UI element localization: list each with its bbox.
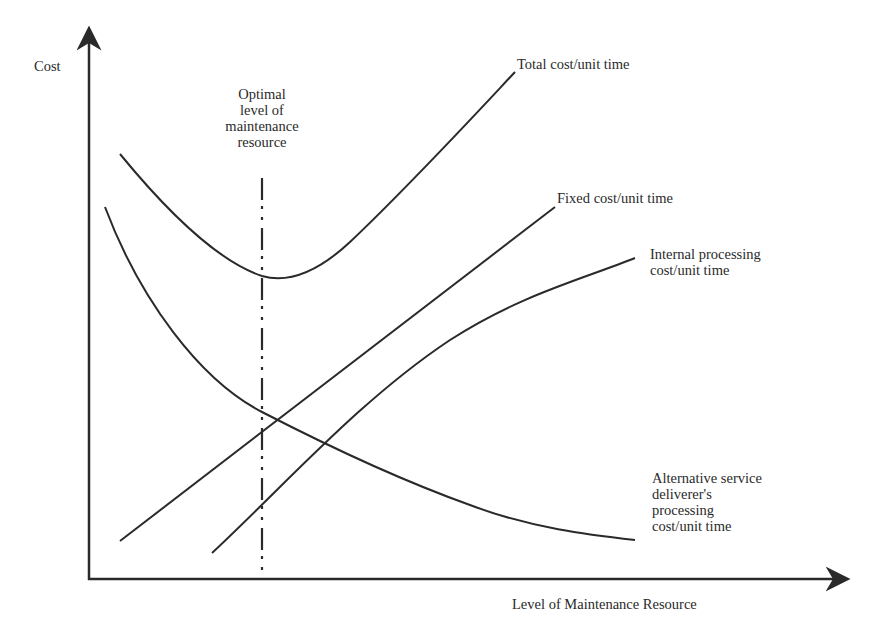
cost-diagram [0,0,883,641]
optimal-label: Optimal level of maintenance resource [212,86,312,150]
optimal-line-4: resource [212,134,312,150]
optimal-line-1: Optimal [212,86,312,102]
total-cost-curve [120,72,515,278]
internal-processing-curve [212,258,635,553]
optimal-line-2: level of [212,102,312,118]
optimal-line-3: maintenance [212,118,312,134]
internal-processing-label: Internal processing cost/unit time [650,246,761,278]
internal-line-2: cost/unit time [650,262,761,278]
alternative-service-curve [105,207,635,540]
y-axis-label: Cost [34,58,61,74]
alternative-line-1: Alternative service [652,470,762,486]
alternative-line-3: processing [652,502,762,518]
internal-line-1: Internal processing [650,246,761,262]
fixed-cost-curve [120,207,555,541]
alternative-service-label: Alternative service deliverer's processi… [652,470,762,534]
alternative-line-2: deliverer's [652,486,762,502]
x-axis-label: Level of Maintenance Resource [512,596,697,612]
total-cost-label: Total cost/unit time [517,56,630,72]
fixed-cost-label: Fixed cost/unit time [557,190,673,206]
alternative-line-4: cost/unit time [652,518,762,534]
